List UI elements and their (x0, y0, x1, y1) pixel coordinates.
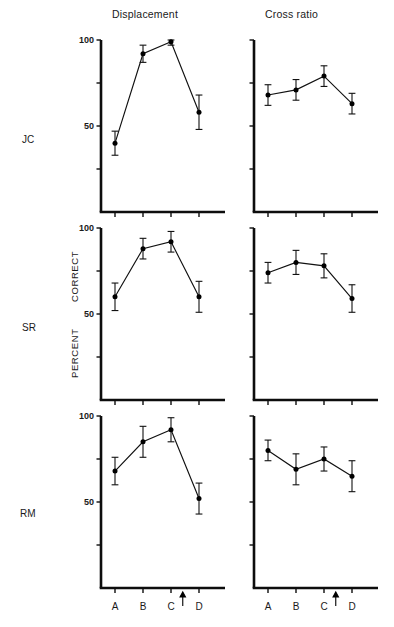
data-point (266, 270, 271, 275)
data-point (322, 263, 327, 268)
x-tick-label-b: B (293, 601, 300, 612)
y-tick-label: 50 (84, 309, 94, 319)
x-tick-label-c: C (320, 601, 327, 612)
data-point (169, 39, 174, 44)
series-line (115, 42, 199, 143)
data-point (197, 496, 202, 501)
series-line (268, 262, 352, 298)
data-point (169, 427, 174, 432)
y-tick-label: 50 (84, 121, 94, 131)
data-point (294, 467, 299, 472)
y-tick-label: 100 (79, 223, 94, 233)
series-line (268, 76, 352, 104)
y-tick-label: 50 (84, 497, 94, 507)
data-point (141, 439, 146, 444)
series-line (268, 450, 352, 476)
data-point (141, 51, 146, 56)
panel-jc-cross-ratio (250, 40, 379, 217)
data-point (113, 469, 118, 474)
y-tick-label: 100 (79, 35, 94, 45)
data-point (197, 294, 202, 299)
x-tick-label-d: D (348, 601, 355, 612)
data-point (266, 448, 271, 453)
data-point (350, 101, 355, 106)
data-point (294, 260, 299, 265)
series-line (115, 242, 199, 297)
data-point (266, 93, 271, 98)
figure-panel-grid: Displacement Cross ratio JC SR RM CORREC… (0, 0, 394, 627)
data-point (322, 457, 327, 462)
panel-jc-displacement: 10050 (79, 35, 225, 217)
x-tick-label-a: A (112, 601, 119, 612)
data-point (322, 74, 327, 79)
panel-sr-cross-ratio (250, 228, 379, 405)
data-point (169, 239, 174, 244)
data-point (294, 87, 299, 92)
up-arrow-head-icon (180, 592, 185, 597)
y-tick-label: 100 (79, 411, 94, 421)
x-tick-label-a: A (265, 601, 272, 612)
plot-canvas: 100501005010050ABCDABCD (0, 0, 394, 627)
data-point (350, 474, 355, 479)
x-tick-label-d: D (195, 601, 202, 612)
x-tick-label-b: B (140, 601, 147, 612)
data-point (197, 110, 202, 115)
x-tick-label-c: C (167, 601, 174, 612)
panel-sr-displacement: 10050 (79, 223, 225, 405)
data-point (350, 296, 355, 301)
panel-rm-displacement: 10050ABCD (79, 411, 225, 612)
data-point (113, 141, 118, 146)
up-arrow-head-icon (333, 592, 338, 597)
data-point (141, 246, 146, 251)
data-point (113, 294, 118, 299)
series-line (115, 430, 199, 499)
panel-rm-cross-ratio: ABCD (250, 416, 379, 612)
